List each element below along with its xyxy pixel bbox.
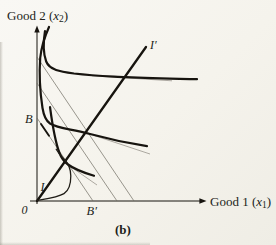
indifference-curve-top [44,31,197,79]
y-axis-arrow-icon [34,26,39,33]
textbook-figure-page: Good 2 (x2) Good 1 (x1) 0 B B′ I I′ (b) [0,0,276,245]
x-axis-label-prefix: Good 1 ( [210,194,256,209]
indifference-curve-middle [40,27,147,146]
point-label-B-prime: B′ [87,204,98,218]
origin-label: 0 [22,203,28,217]
panel-caption: (b) [115,222,131,237]
x-axis-label: Good 1 (x1) [210,194,271,211]
x-axis-arrow-icon [199,198,206,203]
indifference-curve-diagram: Good 2 (x2) Good 1 (x1) 0 B B′ I I′ (b) [0,0,276,245]
tangency-mark [41,124,49,136]
y-axis-label-prefix: Good 2 ( [7,8,53,23]
x-axis-label-suffix: ) [267,194,271,209]
y-axis-label-suffix: ) [64,8,68,23]
y-axis-label: Good 2 (x2) [7,8,68,25]
point-label-B: B [25,112,33,126]
point-label-I-prime: I′ [149,38,157,52]
indifference-curve-bottom [50,107,94,176]
